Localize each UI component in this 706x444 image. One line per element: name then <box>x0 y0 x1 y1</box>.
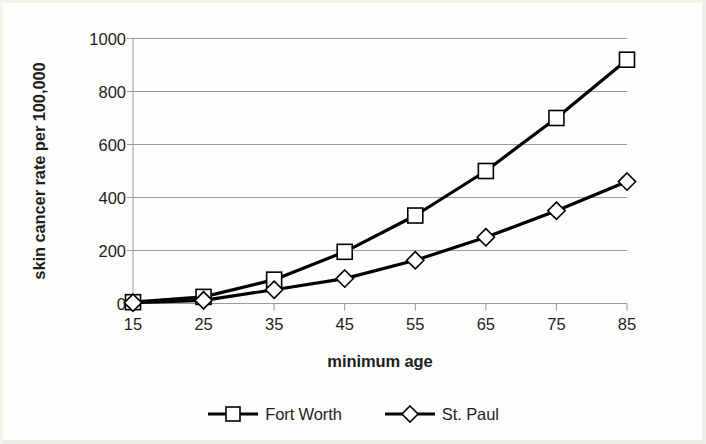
legend-label: Fort Worth <box>265 405 342 424</box>
data-point-marker-diamond <box>548 202 565 219</box>
data-point-marker-square <box>478 164 493 179</box>
data-point-marker-square <box>549 111 564 126</box>
data-point-marker-diamond <box>477 229 494 246</box>
x-axis-tick-labels: 1525354555657585 <box>0 316 706 340</box>
data-point-marker-diamond <box>618 173 635 190</box>
legend-entry: Fort Worth <box>207 404 342 424</box>
x-tick-label: 85 <box>597 316 657 333</box>
data-point-marker-diamond <box>402 406 418 422</box>
x-tick-label: 65 <box>456 316 516 333</box>
legend-marker-square <box>207 404 259 424</box>
data-point-marker-diamond <box>407 252 424 269</box>
x-tick-label: 55 <box>385 316 445 333</box>
data-point-marker-square <box>408 208 423 223</box>
x-tick-label: 45 <box>315 316 375 333</box>
data-point-marker-diamond <box>336 270 353 287</box>
legend-entry: St. Paul <box>384 404 499 424</box>
series-line <box>133 182 627 303</box>
gridlines <box>133 39 627 251</box>
plot-area <box>0 0 706 444</box>
data-point-marker-square <box>337 244 352 259</box>
chart-legend: Fort WorthSt. Paul <box>0 396 706 432</box>
data-point-marker-square <box>226 407 240 421</box>
series-line <box>133 60 627 302</box>
axis-lines <box>127 39 627 304</box>
x-tick-label: 35 <box>244 316 304 333</box>
x-tick-label: 75 <box>526 316 586 333</box>
legend-label: St. Paul <box>442 405 499 424</box>
data-point-marker-square <box>620 52 635 67</box>
skin-cancer-rate-line-chart: skin cancer rate per 100,000 02004006008… <box>0 0 706 444</box>
x-axis-title: minimum age <box>133 352 627 371</box>
legend-marker-diamond <box>384 404 436 424</box>
x-tick-label: 15 <box>103 316 163 333</box>
x-tick-label: 25 <box>174 316 234 333</box>
